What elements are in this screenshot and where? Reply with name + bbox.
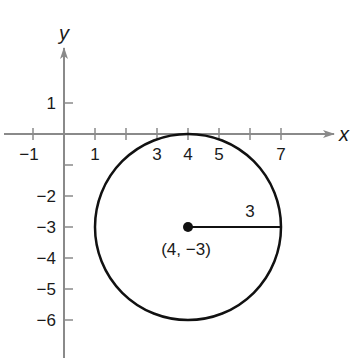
x-axis-label: x: [338, 123, 350, 145]
x-tick-label: 5: [214, 145, 223, 164]
x-tick-label: −1: [19, 145, 38, 164]
y-tick-label: −6: [37, 311, 56, 330]
x-tick-label: 4: [183, 145, 192, 164]
coordinate-plane: −113457 1−2−3−4−5−6 x y 3 (4, −3): [0, 0, 356, 362]
radius-label: 3: [245, 202, 254, 221]
x-tick-label: 3: [152, 145, 161, 164]
x-tick-label: 7: [276, 145, 285, 164]
y-axis-label: y: [57, 22, 70, 44]
center-point-label: (4, −3): [161, 240, 211, 259]
y-tick-label: 1: [47, 94, 56, 113]
center-point: [183, 222, 193, 232]
y-tick-label: −5: [37, 280, 56, 299]
y-axis-tick-labels: 1−2−3−4−5−6: [37, 94, 56, 330]
y-tick-label: −4: [37, 249, 56, 268]
y-tick-label: −3: [37, 218, 56, 237]
x-tick-label: 1: [90, 145, 99, 164]
y-axis-ticks: [64, 103, 73, 320]
y-tick-label: −2: [37, 187, 56, 206]
